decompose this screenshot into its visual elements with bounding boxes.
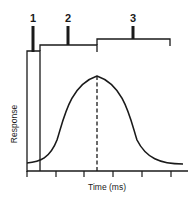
x-axis-label: Time (ms): [88, 182, 126, 192]
response-diagram: 1 2 3 Time (ms) Response: [0, 0, 196, 203]
bracket-2: [40, 45, 97, 52]
marker-2-label: 2: [65, 12, 71, 24]
y-axis-label: Response: [9, 105, 19, 144]
response-curve: [27, 76, 183, 164]
bracket-3: [97, 39, 170, 46]
x-ticks: [27, 171, 171, 177]
marker-3-label: 3: [130, 12, 136, 24]
bracket-1: [27, 51, 40, 171]
marker-1-label: 1: [30, 12, 36, 24]
